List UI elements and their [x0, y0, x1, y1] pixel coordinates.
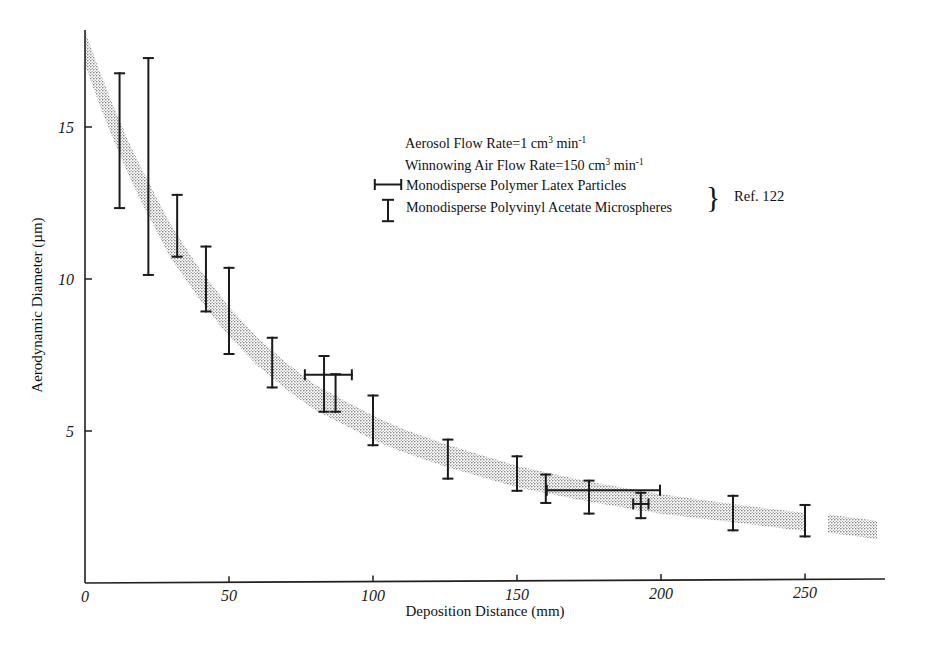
horizontal-error-bar-0 — [304, 369, 353, 380]
legend-winnowing-air-flow-rate: Winnowing Air Flow Rate=150 cm3 min-1 — [405, 157, 644, 173]
legend-aerosol-flow-rate: Aerosol Flow Rate=1 cm3 min-1 — [405, 135, 587, 151]
x-axis-line — [85, 579, 885, 583]
legend-reference: Ref. 122 — [734, 188, 784, 204]
legend-horizontal-errorbar-icon — [374, 179, 402, 190]
x-tick-label-100: 100 — [361, 587, 385, 604]
x-tick-label-0: 0 — [81, 588, 89, 605]
figure-container: 51015 050100150200250 Deposition Distanc… — [0, 0, 940, 646]
x-tick-label-150: 150 — [505, 586, 529, 603]
legend-block: Aerosol Flow Rate=1 cm3 min-1 Winnowing … — [374, 135, 784, 222]
y-tick-label-5: 5 — [66, 423, 74, 440]
legend-entry-pva-microspheres: Monodisperse Polyvinyl Acetate Microsphe… — [406, 199, 672, 215]
y-axis-title: Aerodynamic Diameter (µm) — [29, 217, 46, 392]
x-tick-labels: 050100150200250 — [81, 584, 817, 605]
data-band — [85, 31, 877, 539]
y-tick-labels: 51015 — [58, 119, 74, 440]
x-tick-label-200: 200 — [649, 585, 673, 602]
x-axis-title: Deposition Distance (mm) — [405, 603, 564, 620]
y-tick-label-15: 15 — [58, 119, 74, 136]
vertical-error-bar-1 — [143, 57, 154, 276]
y-tick-marks — [85, 127, 92, 431]
legend-vertical-errorbar-icon — [382, 199, 394, 222]
x-tick-label-50: 50 — [221, 587, 237, 604]
legend-brace: } — [706, 180, 720, 213]
legend-entry-latex-particles: Monodisperse Polymer Latex Particles — [406, 177, 627, 193]
y-tick-label-10: 10 — [58, 271, 74, 288]
x-tick-label-250: 250 — [793, 584, 817, 601]
chart-svg: 51015 050100150200250 Deposition Distanc… — [0, 0, 940, 646]
